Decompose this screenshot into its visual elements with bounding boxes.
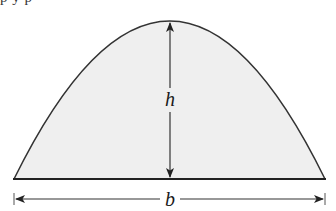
base-label: b — [165, 188, 175, 210]
height-label: h — [165, 88, 175, 110]
parabola-diagram: h b — [0, 0, 336, 211]
